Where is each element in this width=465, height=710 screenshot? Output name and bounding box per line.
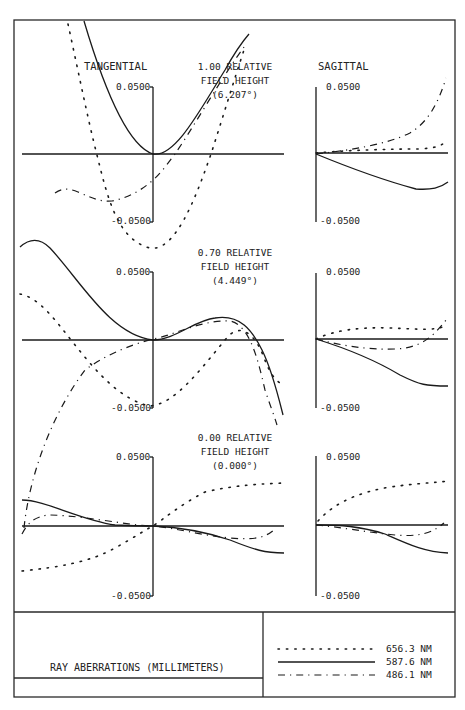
field-label-0.00: 0.00 RELATIVE FIELD HEIGHT (0.000°) bbox=[190, 431, 280, 473]
legend-label-587: 587.6 NM bbox=[386, 656, 432, 667]
ytick-top-tan-3: 0.0500 bbox=[116, 451, 150, 462]
ytick-bottom-tan-2: -0.0500 bbox=[111, 402, 151, 413]
legend-label-486: 486.1 NM bbox=[386, 669, 432, 680]
ytick-bottom-sag-1: -0.0500 bbox=[320, 215, 360, 226]
ytick-top-sag-2: 0.0500 bbox=[326, 266, 360, 277]
tangential-title: TANGENTIAL bbox=[84, 60, 147, 72]
ytick-top-sag-3: 0.0500 bbox=[326, 451, 360, 462]
legend-label-656: 656.3 NM bbox=[386, 643, 432, 654]
field-label-0.70: 0.70 RELATIVE FIELD HEIGHT (4.449°) bbox=[190, 246, 280, 288]
field-label-1.00: 1.00 RELATIVE FIELD HEIGHT (6.207°) bbox=[190, 60, 280, 102]
ytick-bottom-sag-2: -0.0500 bbox=[320, 402, 360, 413]
sagittal-title: SAGITTAL bbox=[318, 60, 369, 72]
ytick-top-tan-2: 0.0500 bbox=[116, 266, 150, 277]
ytick-top-sag-1: 0.0500 bbox=[326, 81, 360, 92]
footer-title: RAY ABERRATIONS (MILLIMETERS) bbox=[50, 662, 225, 673]
ytick-top-tan-1: 0.0500 bbox=[116, 81, 150, 92]
ytick-bottom-sag-3: -0.0500 bbox=[320, 590, 360, 601]
ytick-bottom-tan-3: -0.0500 bbox=[111, 590, 151, 601]
ytick-bottom-tan-1: -0.0500 bbox=[111, 215, 151, 226]
